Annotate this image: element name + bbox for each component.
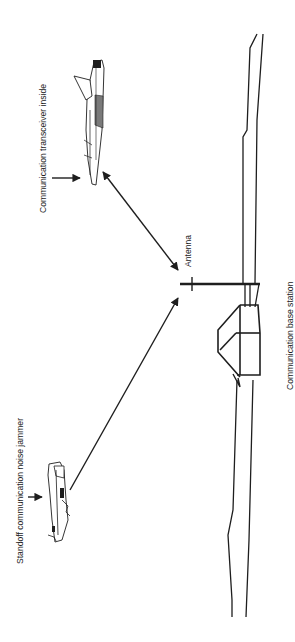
antenna-mast-icon — [180, 277, 260, 291]
jammer-label: Standoff communication noise jammer — [15, 418, 25, 564]
base-station-label: Communication base station — [285, 281, 295, 390]
fighter-jet-icon — [74, 60, 104, 185]
bidirectional-link-arrow — [103, 172, 178, 270]
building-icon — [218, 305, 260, 387]
fighter-jet-icon — [48, 462, 70, 542]
jamming-link-arrow — [70, 298, 178, 490]
antenna-label: Antenna — [183, 235, 193, 267]
jamming-scenario-diagram: Communication transceiver inside Standof… — [0, 0, 295, 642]
transceiver-label: Communication transceiver inside — [38, 84, 48, 213]
terrain-outline — [228, 34, 263, 617]
